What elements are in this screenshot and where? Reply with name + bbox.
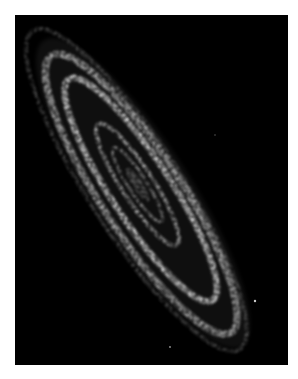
galaxy-image — [15, 15, 288, 365]
star — [254, 300, 256, 302]
outer-halo — [15, 15, 282, 365]
star — [169, 346, 171, 348]
star — [214, 134, 215, 135]
galaxy-drawing — [15, 15, 288, 365]
